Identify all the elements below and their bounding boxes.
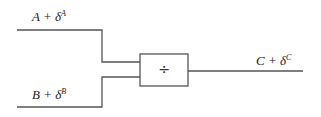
output-c-label: C + δC bbox=[256, 54, 291, 67]
input-b-base: B + δ bbox=[32, 87, 61, 102]
divide-operator-icon: ÷ bbox=[140, 62, 188, 76]
input-b-label: B + δB bbox=[32, 88, 66, 101]
output-c-superscript: C bbox=[286, 53, 291, 62]
input-a-wire bbox=[17, 30, 140, 62]
input-a-superscript: A bbox=[61, 9, 66, 18]
input-a-label: A + δA bbox=[32, 10, 66, 23]
division-block-diagram: A + δA B + δB ÷ C + δC bbox=[0, 0, 321, 117]
output-c-base: C + δ bbox=[256, 53, 286, 68]
input-b-superscript: B bbox=[61, 87, 66, 96]
input-a-base: A + δ bbox=[32, 9, 61, 24]
